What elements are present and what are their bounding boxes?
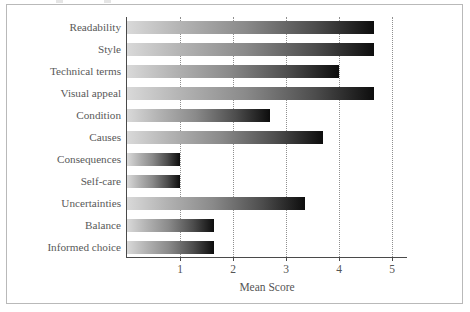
x-tick-label: 4 <box>336 263 342 275</box>
bar <box>127 241 214 254</box>
bar <box>127 109 270 122</box>
category-label: Visual appeal <box>60 87 121 100</box>
bar-row: Causes <box>127 127 408 149</box>
bar-row: Visual appeal <box>127 83 408 105</box>
bar-row: Readability <box>127 17 408 39</box>
category-label: Causes <box>89 131 121 144</box>
top-edge-artifact-strip <box>0 0 470 4</box>
scan-artifact-mark <box>56 0 63 3</box>
x-tick-label: 1 <box>177 263 183 275</box>
bar-row: Balance <box>127 214 408 236</box>
bar-row: Consequences <box>127 148 408 170</box>
bar-row: Self-care <box>127 170 408 192</box>
bar-row: Condition <box>127 105 408 127</box>
bar-row: Style <box>127 39 408 61</box>
category-label: Technical terms <box>50 65 121 78</box>
x-tick-1 <box>180 257 181 261</box>
bar <box>127 197 305 210</box>
category-label: Self-care <box>81 175 121 188</box>
category-label: Uncertainties <box>61 197 121 210</box>
scan-artifact-mark <box>104 0 111 3</box>
x-tick-label: 3 <box>283 263 289 275</box>
plot-area: Mean Score ReadabilityStyleTechnical ter… <box>126 17 407 258</box>
x-tick-label: 5 <box>389 263 395 275</box>
x-tick-5 <box>392 257 393 261</box>
x-tick-3 <box>286 257 287 261</box>
bar <box>127 21 374 34</box>
bar-row: Informed choice <box>127 236 408 258</box>
bar <box>127 219 214 232</box>
bar <box>127 65 339 78</box>
x-tick-4 <box>339 257 340 261</box>
bar <box>127 153 180 166</box>
x-tick-label: 2 <box>230 263 236 275</box>
category-label: Consequences <box>57 153 121 166</box>
bar <box>127 175 180 188</box>
category-label: Style <box>98 43 121 56</box>
x-axis-title: Mean Score <box>239 281 294 293</box>
category-label: Balance <box>85 219 121 232</box>
category-label: Condition <box>76 109 121 122</box>
chart-figure: Mean Score ReadabilityStyleTechnical ter… <box>0 0 470 312</box>
bar <box>127 131 323 144</box>
bar-row: Uncertainties <box>127 192 408 214</box>
bar-row: Technical terms <box>127 61 408 83</box>
x-tick-2 <box>233 257 234 261</box>
bar <box>127 87 374 100</box>
category-label: Informed choice <box>47 241 121 254</box>
bar <box>127 43 374 56</box>
category-label: Readability <box>69 21 121 34</box>
